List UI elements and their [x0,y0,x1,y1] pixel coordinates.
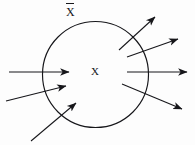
arrow-outflow-upper-mid-right [127,39,178,57]
outer-region-label-glyph: X [66,6,75,18]
outer-region-label: X [66,3,75,18]
inner-region-label: X [91,66,99,77]
overbar-accent [66,3,74,4]
arrow-inflow-middle-left [6,86,66,101]
arrow-inflow-lower-left [31,103,76,141]
arrow-outflow-upper-right [119,17,155,50]
flux-diagram: X X [0,0,195,145]
arrow-outflow-lower-right [122,84,182,109]
